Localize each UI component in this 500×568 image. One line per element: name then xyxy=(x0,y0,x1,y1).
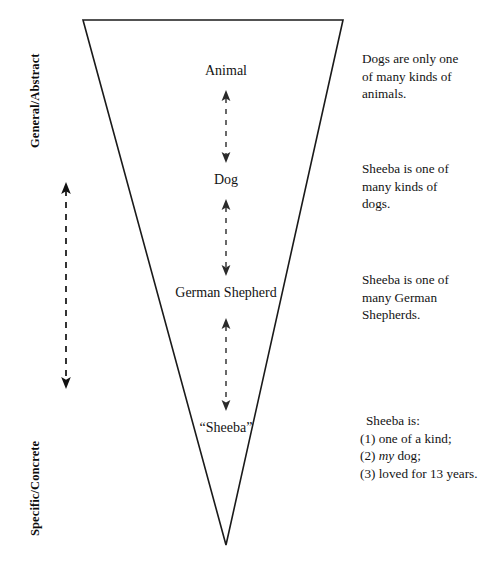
note-line: of many kinds of xyxy=(362,68,496,86)
note-fragment-emphasis: my xyxy=(379,448,394,463)
ladder-of-abstraction-diagram: General/Abstract Specific/Concrete Anima… xyxy=(0,0,500,568)
inverted-triangle-outline xyxy=(83,20,343,545)
note-fragment-pre: (2) xyxy=(360,448,379,463)
note-line: animals. xyxy=(362,85,496,103)
note-line: Sheeba is: xyxy=(360,412,500,430)
note-line: Dogs are only one xyxy=(362,50,496,68)
arrow-dog-german-shepherd xyxy=(222,199,231,276)
arrow-german-shepherd-sheeba xyxy=(222,318,231,411)
note-block-animals: Dogs are only one of many kinds of anima… xyxy=(362,50,496,103)
note-fragment-post: dog; xyxy=(394,448,421,463)
note-line: many German xyxy=(362,289,496,307)
note-block-sheeba: Sheeba is: (1) one of a kind; (2) my dog… xyxy=(360,412,500,482)
tier-label-sheeba: “Sheeba” xyxy=(96,420,356,436)
note-line: dogs. xyxy=(362,195,496,213)
note-line: Shepherds. xyxy=(362,306,496,324)
note-line: (1) one of a kind; xyxy=(360,430,500,448)
note-line-my-dog: (2) my dog; xyxy=(360,447,500,465)
tier-label-dog: Dog xyxy=(96,172,356,188)
note-line: Sheeba is one of xyxy=(362,271,496,289)
tier-label-german-shepherd: German Shepherd xyxy=(96,285,356,301)
axis-label-general-abstract: General/Abstract xyxy=(28,53,43,148)
abstraction-gradient-arrow xyxy=(61,182,71,389)
arrow-animal-dog xyxy=(222,90,231,163)
tier-label-animal: Animal xyxy=(96,63,356,79)
axis-label-specific-concrete: Specific/Concrete xyxy=(28,441,43,536)
note-line: (3) loved for 13 years. xyxy=(360,465,500,483)
note-line: many kinds of xyxy=(362,178,496,196)
note-block-dogs: Sheeba is one of many kinds of dogs. xyxy=(362,160,496,213)
note-block-german-shepherds: Sheeba is one of many German Shepherds. xyxy=(362,271,496,324)
note-line: Sheeba is one of xyxy=(362,160,496,178)
